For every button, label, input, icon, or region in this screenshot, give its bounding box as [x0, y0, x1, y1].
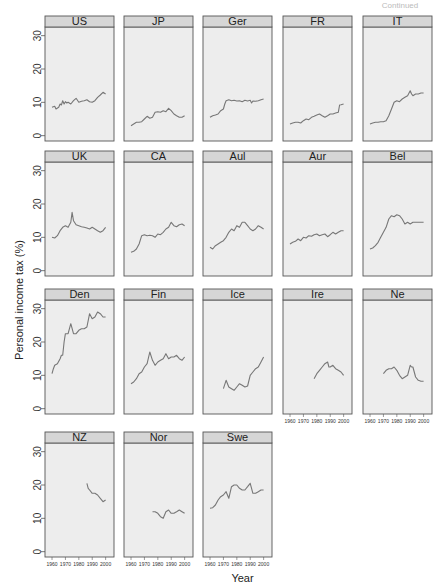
panel-us: US0102030 [32, 15, 115, 141]
strip-label: FR [310, 15, 325, 27]
panel-swe: Swe19601970198019902000 [203, 431, 272, 567]
x-tick-label: 1990 [245, 561, 256, 567]
x-axis-title: Year [231, 572, 254, 584]
strip-label: JP [152, 15, 165, 27]
x-tick-label: 1960 [46, 561, 57, 567]
panel-aur: Aur [283, 150, 352, 276]
x-tick-label: 1970 [139, 561, 150, 567]
plot-area [363, 300, 432, 414]
strip-label: Fin [151, 288, 166, 300]
x-tick-label: 1980 [152, 561, 163, 567]
corner-caption: Continued [382, 1, 418, 10]
x-tick-label: 1960 [364, 418, 375, 424]
x-tick-label: 1980 [73, 561, 84, 567]
x-tick-label: 2000 [179, 561, 190, 567]
x-tick-label: 1970 [218, 561, 229, 567]
faceted-line-chart: US0102030JPGerFRITUK0102030CAAulAurBelDe… [0, 0, 444, 588]
plot-area [45, 27, 114, 141]
panel-nor: Nor19601970198019902000 [124, 431, 193, 567]
strip-label: Ne [390, 288, 404, 300]
strip-label: IT [393, 15, 403, 27]
x-tick-label: 2000 [338, 418, 349, 424]
strip-label: Den [69, 288, 89, 300]
x-tick-label: 2000 [418, 418, 429, 424]
strip-label: Aur [309, 150, 326, 162]
plot-area [124, 162, 193, 276]
panel-fr: FR [283, 15, 352, 141]
panel-ca: CA [124, 150, 193, 276]
plot-area [45, 162, 114, 276]
y-tick-label: 20 [32, 198, 43, 210]
panel-ire: Ire19601970198019902000 [283, 288, 352, 424]
strip-label: Nor [150, 431, 168, 443]
plot-area [363, 27, 432, 141]
panel-ne: Ne19601970198019902000 [363, 288, 432, 424]
y-tick-label: 10 [32, 96, 43, 108]
x-tick-label: 1970 [60, 561, 71, 567]
strip-label: Ire [311, 288, 324, 300]
y-tick-label: 20 [32, 336, 43, 348]
plot-area [283, 162, 352, 276]
strip-label: CA [151, 150, 167, 162]
panel-ice: Ice [203, 288, 272, 414]
plot-area [124, 300, 193, 414]
x-tick-label: 1980 [311, 418, 322, 424]
x-tick-label: 1960 [204, 561, 215, 567]
panel-jp: JP [124, 15, 193, 141]
plot-area [283, 27, 352, 141]
x-tick-label: 1960 [284, 418, 295, 424]
x-tick-label: 1990 [166, 561, 177, 567]
y-tick-label: 10 [32, 512, 43, 524]
x-tick-label: 1960 [125, 561, 136, 567]
y-tick-label: 0 [32, 548, 43, 554]
plot-area [203, 300, 272, 414]
y-tick-label: 0 [32, 405, 43, 411]
plot-area [203, 443, 272, 557]
panel-uk: UK0102030 [32, 150, 115, 276]
strip-label: Bel [390, 150, 406, 162]
y-tick-label: 30 [32, 446, 43, 458]
strip-label: US [72, 15, 87, 27]
panel-fin: Fin [124, 288, 193, 414]
y-tick-label: 0 [32, 132, 43, 138]
panel-nz: NZ010203019601970198019902000 [32, 431, 115, 567]
y-tick-label: 0 [32, 267, 43, 273]
y-tick-label: 10 [32, 231, 43, 243]
strip-label: Ice [230, 288, 245, 300]
strip-label: Aul [230, 150, 246, 162]
panel-bel: Bel [363, 150, 432, 276]
plot-area [203, 162, 272, 276]
strip-label: Swe [227, 431, 248, 443]
y-tick-label: 30 [32, 30, 43, 42]
panel-ger: Ger [203, 15, 272, 141]
x-tick-label: 1970 [378, 418, 389, 424]
y-tick-label: 20 [32, 479, 43, 491]
strip-label: UK [72, 150, 88, 162]
y-tick-label: 30 [32, 165, 43, 177]
strip-label: NZ [72, 431, 87, 443]
strip-label: Ger [228, 15, 247, 27]
y-axis-title: Personal income tax (%) [13, 240, 25, 360]
y-tick-label: 10 [32, 369, 43, 381]
x-tick-label: 1990 [87, 561, 98, 567]
plot-area [124, 443, 193, 557]
panel-den: Den0102030 [32, 288, 115, 414]
plot-area [363, 162, 432, 276]
x-tick-label: 1980 [391, 418, 402, 424]
x-tick-label: 2000 [258, 561, 269, 567]
y-tick-label: 20 [32, 63, 43, 75]
x-tick-label: 1970 [298, 418, 309, 424]
panel-it: IT [363, 15, 432, 141]
plot-area [203, 27, 272, 141]
panel-aul: Aul [203, 150, 272, 276]
plot-area [45, 443, 114, 557]
plot-area [283, 300, 352, 414]
x-tick-label: 1980 [231, 561, 242, 567]
x-tick-label: 1990 [325, 418, 336, 424]
x-tick-label: 2000 [100, 561, 111, 567]
y-tick-label: 30 [32, 303, 43, 315]
x-tick-label: 1990 [405, 418, 416, 424]
